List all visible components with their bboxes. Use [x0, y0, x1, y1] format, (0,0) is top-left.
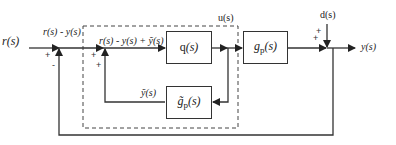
model-output-label: ỹ(s) [141, 88, 156, 98]
model-block-gp-tilde: g̃p(s) [166, 86, 212, 119]
imc-block-diagram: q(s) gp(s) g̃p(s) r(s) r(s) - y(s) r(s) … [0, 0, 396, 145]
diagram-wires [0, 0, 396, 145]
model-block-label: g̃p(s) [177, 94, 200, 110]
sj2-plus-sign-a: + [91, 51, 96, 60]
model-output-wire [105, 49, 165, 102]
controller-block-q: q(s) [166, 31, 212, 64]
sj2-plus-sign-b: + [96, 61, 101, 70]
sj3-plus-sign-b: + [313, 34, 318, 43]
sj1-plus-sign: + [45, 51, 50, 60]
plant-block-label: gp(s) [254, 39, 277, 55]
controller-block-label: q(s) [180, 40, 199, 55]
disturbance-label: d(s) [320, 10, 336, 20]
control-signal-label: u(s) [218, 13, 234, 23]
model-input-wire [213, 48, 228, 102]
error-label: r(s) - y(s) [43, 27, 81, 37]
plant-block-gp: gp(s) [243, 31, 288, 64]
output-label: y(s) [361, 42, 376, 52]
input-label: r(s) [2, 35, 19, 47]
controller-input-label: r(s) - y(s) + ỹ(s) [99, 36, 164, 46]
sj1-minus-sign: - [52, 61, 55, 70]
